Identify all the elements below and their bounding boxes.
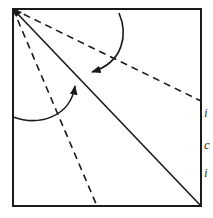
clipped-text-2: c (204, 138, 210, 152)
clipped-text-1: i (204, 106, 208, 120)
clipped-text-3: i (204, 166, 208, 180)
fold-diagram (0, 0, 213, 218)
